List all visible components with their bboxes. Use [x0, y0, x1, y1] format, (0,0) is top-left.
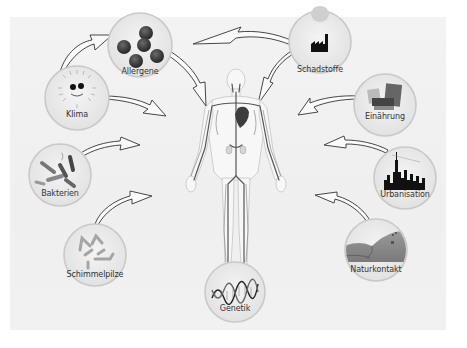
arrow-allergene-to-body: [166, 50, 206, 106]
diagram-canvas: [0, 0, 467, 348]
label-schimmelpilze: Schimmelpilze: [60, 270, 130, 279]
label-genetik: Genetik: [200, 304, 270, 313]
arrow-schadstoffe-to-body: [258, 50, 295, 104]
arrow-schimmelpilze-to-body: [95, 191, 152, 225]
label-urbanisation: Urbanisation: [370, 190, 440, 199]
arrow-naturkontakt-to-body: [315, 192, 372, 225]
label-allergene: Allergene: [105, 67, 175, 76]
label-naturkontakt: Naturkontakt: [341, 265, 411, 274]
label-klima: Klima: [42, 110, 112, 119]
label-schadstoffe: Schadstoffe: [285, 65, 355, 74]
circle-klima: [45, 66, 109, 130]
arrow-urbanisation-to-body: [324, 136, 388, 153]
arrow-schadstoffe-to-allergene: [193, 27, 293, 45]
arrow-klima-to-body: [104, 96, 166, 116]
label-einaehrung: Einährung: [350, 112, 420, 121]
label-bakterien: Bakterien: [25, 189, 95, 198]
arrow-bakterien-to-body: [78, 137, 140, 158]
